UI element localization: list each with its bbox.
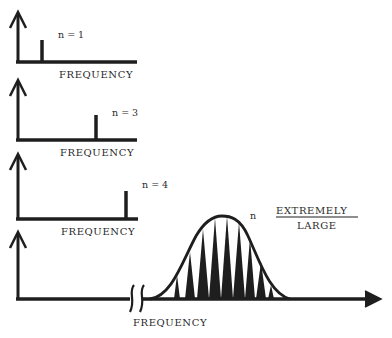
- n-label: n = 1: [58, 29, 84, 40]
- panel-n1: n = 1 FREQUENCY: [10, 12, 137, 80]
- x-axis-label: FREQUENCY: [59, 69, 133, 80]
- n-label: n = 4: [142, 179, 168, 190]
- spectral-lines: [174, 216, 274, 299]
- x-axis-arrow-icon: [365, 291, 381, 307]
- x-axis-label: FREQUENCY: [133, 317, 207, 328]
- axis-break-icon: [130, 285, 134, 312]
- n-value-bottom: LARGE: [297, 220, 337, 231]
- panel-n4: n = 4 FREQUENCY: [10, 154, 168, 237]
- n-value-top: EXTREMELY: [276, 205, 347, 216]
- x-axis-label: FREQUENCY: [60, 147, 134, 158]
- n-label: n: [250, 210, 256, 221]
- panel-n-large: n EXTREMELY LARGE FREQUENCY: [10, 205, 381, 328]
- x-axis-label: FREQUENCY: [61, 226, 135, 237]
- panel-n3: n = 3 FREQUENCY: [10, 80, 138, 158]
- n-label: n = 3: [112, 107, 138, 118]
- frequency-spectrum-diagram: n = 1 FREQUENCY n = 3 FREQUENCY n = 4 FR…: [0, 0, 392, 338]
